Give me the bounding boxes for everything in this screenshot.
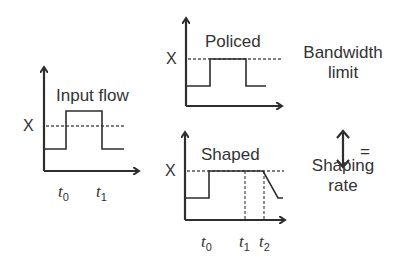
bandwidth-label-line1: Bandwidth	[300, 44, 386, 61]
policed-signal	[187, 59, 266, 86]
shaped-t0-label: t0	[201, 233, 212, 253]
shaping-label-line1: Shaping	[300, 157, 386, 174]
shaped-level-label: X	[165, 163, 176, 179]
shaping-label-line2: rate	[300, 177, 386, 194]
shaped-t2-label: t2	[259, 233, 270, 253]
input-signal	[45, 111, 124, 149]
shaped-t1-label: t1	[239, 233, 250, 253]
policed-level-label: X	[166, 51, 177, 67]
input-t1-label: t1	[96, 183, 107, 203]
bandwidth-label-line2: limit	[300, 64, 386, 81]
input-t0-label: t0	[58, 183, 69, 203]
shaped-signal	[186, 171, 283, 198]
input-flow-chart	[44, 68, 138, 171]
policed-title: Policed	[205, 33, 261, 50]
shaped-title: Shaped	[201, 146, 260, 163]
input-level-label: X	[23, 118, 34, 134]
input-flow-title: Input flow	[56, 87, 129, 104]
